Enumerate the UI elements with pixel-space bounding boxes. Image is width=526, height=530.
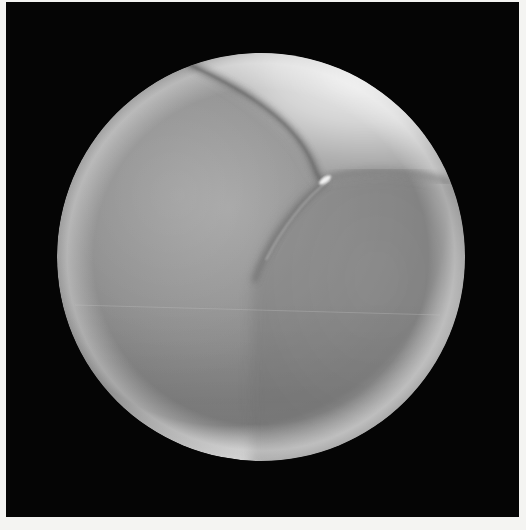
sphere-photo	[0, 0, 526, 530]
